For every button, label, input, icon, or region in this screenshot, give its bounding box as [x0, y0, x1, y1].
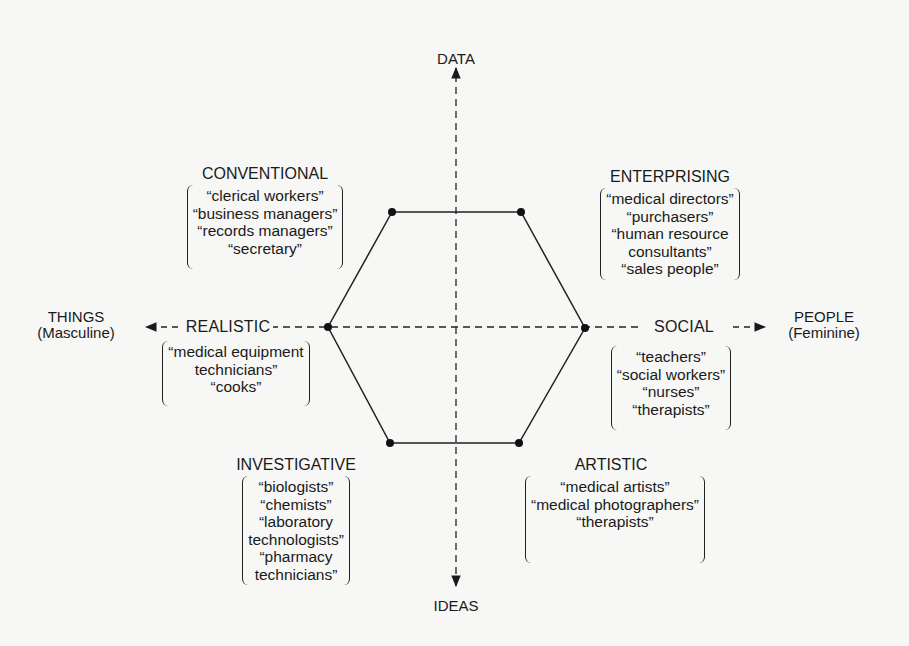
example-item: “records managers”: [193, 222, 338, 240]
axis-label-things-sub: (Masculine): [26, 325, 126, 340]
type-title-social: SOCIAL: [638, 319, 730, 335]
example-item: “medical artists”: [531, 478, 699, 496]
axis-label-things: THINGS (Masculine): [26, 309, 126, 340]
example-item: technologists”: [248, 531, 344, 549]
example-item: “business managers”: [193, 205, 338, 223]
type-title-conventional: CONVENTIONAL: [163, 165, 367, 183]
example-item: “sales people”: [606, 260, 733, 278]
group-realistic: “medical equipment technicians” “cooks”: [150, 343, 322, 404]
type-title-artistic: ARTISTIC: [525, 456, 697, 474]
axis-label-ideas: IDEAS: [424, 598, 488, 613]
axis-label-data: DATA: [428, 51, 484, 66]
type-title-realistic: REALISTIC: [183, 319, 273, 335]
example-item: “pharmacy: [248, 548, 344, 566]
type-title-enterprising: ENTERPRISING: [580, 168, 760, 186]
example-item: “medical directors”: [606, 190, 733, 208]
example-item: “nurses”: [617, 383, 726, 401]
example-item: “therapists”: [531, 513, 699, 531]
example-item: “social workers”: [617, 366, 726, 384]
example-item: “purchasers”: [606, 208, 733, 226]
example-item: “secretary”: [193, 240, 338, 258]
example-item: “biologists”: [248, 478, 344, 496]
group-artistic: ARTISTIC “medical artists” “medical phot…: [525, 456, 697, 561]
example-item: “cooks”: [168, 378, 303, 396]
example-item: “medical photographers”: [531, 496, 699, 514]
example-item: technicians”: [248, 566, 344, 584]
examples-bracket: “medical equipment technicians” “cooks”: [162, 343, 309, 404]
example-item: “human resource: [606, 225, 733, 243]
axis-label-people: PEOPLE (Feminine): [770, 309, 878, 340]
examples-bracket: “clerical workers” “business managers” “…: [187, 187, 344, 267]
examples-bracket: “medical artists” “medical photographers…: [525, 478, 705, 561]
example-item: “chemists”: [248, 496, 344, 514]
example-item: “medical equipment: [168, 343, 303, 361]
axis-label-people-sub: (Feminine): [770, 325, 878, 340]
example-item: “laboratory: [248, 513, 344, 531]
group-social: “teachers” “social workers” “nurses” “th…: [596, 348, 746, 428]
example-item: technicians”: [168, 361, 303, 379]
example-item: “therapists”: [617, 401, 726, 419]
group-investigative: INVESTIGATIVE “biologists” “chemists” “l…: [228, 456, 364, 584]
group-enterprising: ENTERPRISING “medical directors” “purcha…: [580, 168, 760, 278]
example-item: consultants”: [606, 243, 733, 261]
examples-bracket: “biologists” “chemists” “laboratory tech…: [242, 478, 350, 583]
example-item: “teachers”: [617, 348, 726, 366]
type-title-investigative: INVESTIGATIVE: [228, 456, 364, 474]
group-conventional: CONVENTIONAL “clerical workers” “busines…: [163, 165, 367, 267]
axis-label-people-title: PEOPLE: [794, 308, 854, 325]
axis-label-things-title: THINGS: [48, 308, 105, 325]
example-item: “clerical workers”: [193, 187, 338, 205]
examples-bracket: “medical directors” “purchasers” “human …: [600, 190, 739, 278]
examples-bracket: “teachers” “social workers” “nurses” “th…: [611, 348, 732, 428]
